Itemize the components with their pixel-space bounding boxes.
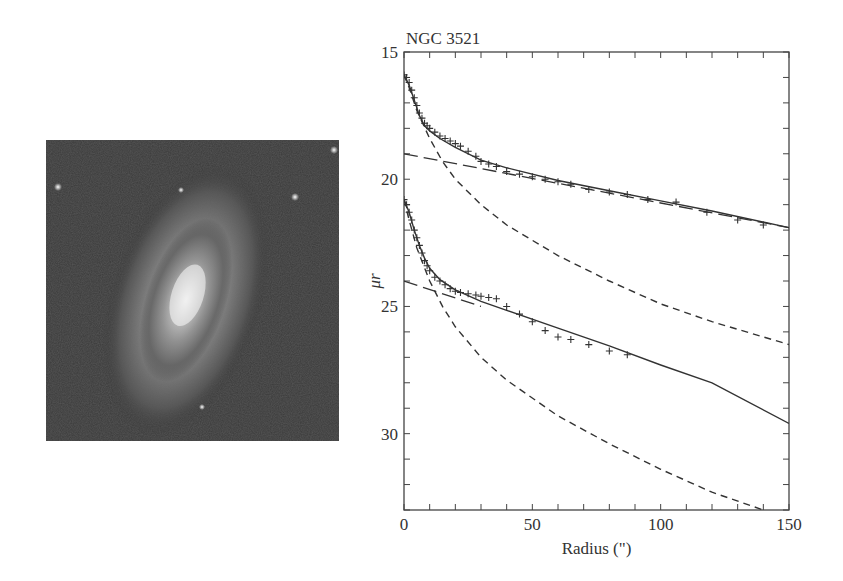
series-line xyxy=(404,154,789,228)
data-point xyxy=(585,341,592,348)
y-tick-label: 25 xyxy=(381,297,398,316)
y-tick-label: 15 xyxy=(381,43,398,62)
chart-title: NGC 3521 xyxy=(406,29,480,48)
series-line xyxy=(404,75,789,228)
x-tick-label: 150 xyxy=(776,515,802,534)
data-point xyxy=(606,347,613,354)
x-tick-label: 50 xyxy=(524,515,541,534)
data-point xyxy=(478,293,485,300)
data-point xyxy=(485,294,492,301)
x-axis-label: Radius (") xyxy=(562,539,632,558)
data-point xyxy=(567,336,574,343)
data-point xyxy=(606,188,613,195)
data-point xyxy=(555,333,562,340)
series-line xyxy=(404,200,763,510)
series-line xyxy=(404,200,789,424)
y-tick-label: 30 xyxy=(381,425,398,444)
data-point xyxy=(493,295,500,302)
x-tick-label: 100 xyxy=(648,515,674,534)
x-tick-label: 0 xyxy=(400,515,409,534)
plot-frame xyxy=(404,52,789,510)
y-tick-label: 20 xyxy=(381,170,398,189)
data-point xyxy=(542,327,549,334)
surface-brightness-chart: 05010015015202530NGC 3521Radius (")μr xyxy=(0,0,843,581)
y-axis-label: μr xyxy=(365,273,384,290)
series-line xyxy=(404,75,789,345)
